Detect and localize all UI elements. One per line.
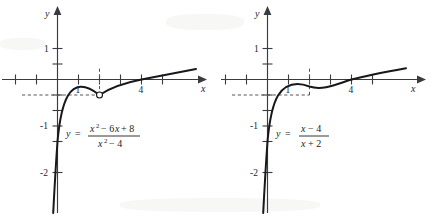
graph-panel-right: y x 1 4 1 -1 -2 y = x − 4 x + 2 [219,0,438,221]
left-y-tick-label-1: 1 [44,44,49,54]
left-x-tick-label-4: 4 [139,85,144,95]
right-plot-svg: y x 1 4 1 -1 -2 y = x − 4 x + 2 [219,0,438,221]
right-eq-lhs: y [275,128,281,139]
left-eq-num-tail: + 8 [121,123,134,134]
x-axis-arrowhead [417,76,426,84]
right-x-axis-label: x [410,83,416,94]
right-eq-num-var: x [300,123,306,134]
right-x-axis [221,76,426,84]
right-y-tick-label-neg2: -2 [250,168,258,178]
left-eq-den-exp1: 2 [104,137,108,144]
left-eq-num-mid: − 6 [101,123,114,134]
right-y-tick-label-1: 1 [254,44,259,54]
left-equation: y = x 2 − 6 x + 8 x 2 − 4 [65,122,140,149]
right-x-tick-label-4: 4 [349,85,354,95]
right-eq-den-var: x [300,138,306,149]
y-axis-arrowhead [264,6,272,15]
right-y-tick-label-neg1: -1 [250,121,258,131]
right-eq-num-tail: − 4 [308,123,321,134]
left-x-axis [2,76,207,84]
left-eq-lhs: y [65,128,71,139]
right-eq-equals: = [285,128,291,139]
right-y-axis-label: y [254,8,260,19]
left-x-axis-label: x [200,83,206,94]
figure-rational-function-graphs: y x 1 4 1 -1 -2 y = x 2 − 6 x + 8 x [0,0,438,221]
left-x-tick-label-1: 1 [76,85,81,95]
left-eq-num-var2: x [114,123,120,134]
left-eq-num-exp1: 2 [96,122,100,129]
left-y-axis-label: y [44,8,50,19]
left-eq-den-var1: x [97,138,103,149]
left-dashed-guides [22,66,100,95]
left-y-tick-label-neg2: -2 [40,168,48,178]
right-eq-den-tail: + 2 [308,138,321,149]
left-eq-den-tail: − 4 [109,138,122,149]
left-plot-svg: y x 1 4 1 -1 -2 y = x 2 − 6 x + 8 x [0,0,219,221]
graph-panel-left: y x 1 4 1 -1 -2 y = x 2 − 6 x + 8 x [0,0,219,221]
right-dashed-guides [232,66,310,95]
left-eq-equals: = [75,128,81,139]
left-y-tick-label-neg1: -1 [40,121,48,131]
y-axis-arrowhead [54,6,62,15]
right-x-tick-label-1: 1 [286,85,291,95]
open-circle-hole [97,92,103,98]
left-eq-num-var1: x [89,123,95,134]
right-equation: y = x − 4 x + 2 [275,123,329,149]
